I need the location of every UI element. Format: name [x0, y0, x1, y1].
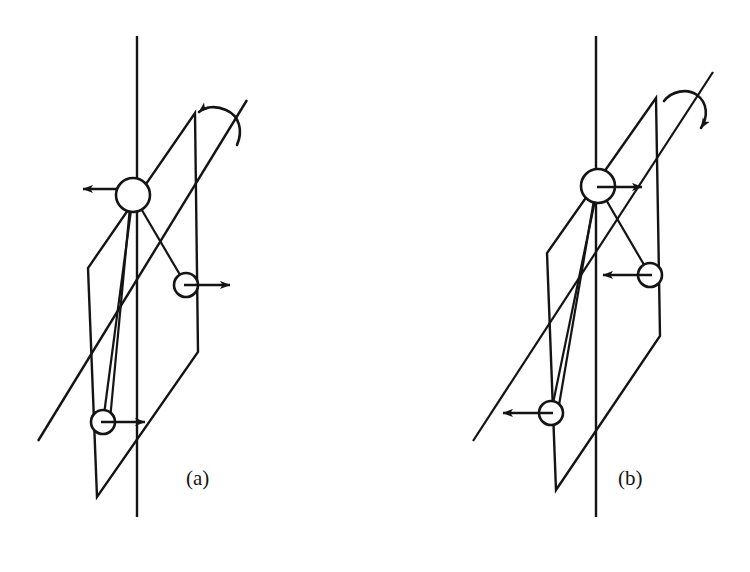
panel-b-label: (b): [618, 466, 643, 490]
figure-svg: (a) (b): [0, 0, 750, 572]
panel-a-label: (a): [186, 466, 209, 490]
panel-a-atom-top: [116, 178, 150, 212]
figure-container: (a) (b): [0, 0, 750, 572]
